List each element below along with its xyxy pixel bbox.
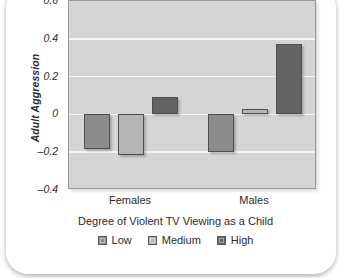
- y-tick-label: 0.6: [16, 0, 58, 6]
- legend-item-high[interactable]: High: [217, 234, 254, 246]
- legend-item-low[interactable]: Low: [98, 234, 132, 246]
- gridline: [69, 151, 315, 153]
- y-tick-label: 0.4: [16, 32, 58, 44]
- legend-swatch-icon: [98, 236, 107, 245]
- plot-wrapper: 0.60.40.20–0.2–0.4 FemalesMales: [62, 0, 316, 189]
- legend-label: Medium: [162, 234, 201, 246]
- legend-item-medium[interactable]: Medium: [148, 234, 201, 246]
- legend-label: Low: [112, 234, 132, 246]
- bar-females-medium: [118, 114, 144, 155]
- bar-females-low: [84, 114, 110, 149]
- bar-males-medium: [242, 109, 268, 115]
- legend-label: High: [231, 234, 254, 246]
- bar-chart-figure: Adult Aggression 0.60.40.20–0.2–0.4 Fema…: [6, 0, 336, 264]
- chart-card: The Relationship Between Violent TV View…: [6, 0, 336, 274]
- y-tick-label: –0.4: [16, 183, 58, 195]
- x-axis-caption: Degree of Violent TV Viewing as a Child: [6, 215, 336, 227]
- plot-area: [68, 0, 316, 189]
- bar-males-high: [276, 44, 302, 114]
- y-tick-label: 0: [16, 107, 58, 119]
- group-label-males: Males: [194, 194, 314, 206]
- chart-legend: LowMediumHigh: [6, 234, 336, 246]
- card-surface: The Relationship Between Violent TV View…: [6, 0, 336, 274]
- y-tick-label: 0.2: [16, 70, 58, 82]
- legend-swatch-icon: [217, 236, 226, 245]
- y-tick-label: –0.2: [16, 145, 58, 157]
- bar-males-low: [208, 114, 234, 152]
- group-label-females: Females: [70, 194, 190, 206]
- bar-females-high: [152, 97, 178, 114]
- legend-swatch-icon: [148, 236, 157, 245]
- gridline: [69, 38, 315, 40]
